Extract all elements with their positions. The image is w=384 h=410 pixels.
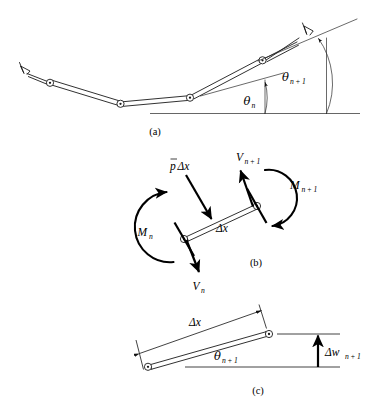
dim-ext-left-c bbox=[136, 340, 144, 370]
shear-n-subscript: n bbox=[201, 286, 205, 295]
theta-n-label: θ bbox=[244, 94, 251, 108]
link-chain bbox=[27, 38, 299, 106]
moment-n1-label: M bbox=[289, 179, 301, 191]
distributed-load-label: p Δx bbox=[169, 159, 190, 173]
panel-label-a: (a) bbox=[149, 126, 161, 138]
element-length-label: Δx bbox=[215, 222, 229, 234]
theta-n1-label: θ bbox=[282, 70, 289, 84]
dim-ext-right-c bbox=[259, 305, 267, 329]
cut-face-left bbox=[175, 223, 195, 257]
theta-n1-geom-subscript: n + 1 bbox=[222, 356, 238, 365]
theta-n1-arc bbox=[319, 39, 333, 114]
hinge-joint bbox=[144, 363, 151, 370]
hinge-joint bbox=[117, 100, 124, 107]
panel-label-b: (b) bbox=[250, 257, 263, 269]
shear-n1-subscript: n + 1 bbox=[245, 157, 261, 166]
moment-n-label: M bbox=[137, 226, 149, 238]
moment-n1-subscript: n + 1 bbox=[302, 185, 318, 194]
break-symbol-right bbox=[303, 23, 314, 35]
cut-face-right bbox=[247, 189, 267, 224]
beam-element-figure: θ n θ n + 1 (a) Δx bbox=[0, 0, 384, 410]
load-p-symbol: p bbox=[169, 160, 176, 173]
theta-n-subscript: n bbox=[252, 101, 256, 110]
rise-label-c: Δw bbox=[324, 346, 340, 358]
figure-container: θ n θ n + 1 (a) Δx bbox=[0, 0, 384, 410]
panel-label-c: (c) bbox=[252, 385, 264, 397]
break-symbol-left bbox=[20, 63, 31, 75]
hinge-joints-a bbox=[46, 57, 266, 108]
hinge-joint bbox=[46, 79, 53, 86]
theta-n1-reference-ray bbox=[258, 19, 357, 61]
panel-c: θ n + 1 Δx Δw n + 1 (c) bbox=[136, 305, 361, 398]
hinge-joint bbox=[265, 330, 272, 337]
element-body-c bbox=[150, 332, 267, 369]
shear-n1-arrow bbox=[241, 171, 254, 207]
span-label-c: Δx bbox=[188, 316, 202, 328]
theta-n1-subscript: n + 1 bbox=[290, 77, 306, 86]
theta-n1-geom-label: θ bbox=[214, 349, 221, 363]
moment-n-subscript: n bbox=[149, 232, 153, 241]
panel-b: Δx p Δx V n + 1 V n M n M n + 1 (b) bbox=[135, 151, 317, 295]
panel-a: θ n θ n + 1 (a) bbox=[20, 19, 361, 138]
load-deltax-symbol: Δx bbox=[177, 160, 191, 172]
rise-subscript-c: n + 1 bbox=[345, 352, 361, 361]
hinge-joint bbox=[186, 94, 193, 101]
distributed-load-arrow bbox=[186, 175, 212, 219]
theta-n-reference-ray bbox=[201, 73, 284, 96]
